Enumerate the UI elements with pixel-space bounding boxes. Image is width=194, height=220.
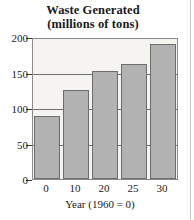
x-axis-label-30: 30 [147, 183, 177, 194]
bar-year-20 [92, 71, 118, 179]
y-axis-label-150: 150 [0, 69, 28, 80]
x-axis-label-0: 0 [31, 183, 61, 194]
y-axis-label-100: 100 [0, 104, 28, 115]
x-axis-label-20: 20 [89, 183, 119, 194]
plot-area [32, 38, 178, 180]
page-edge-rule [190, 0, 191, 220]
chart-title: Waste Generated (millions of tons) [0, 3, 186, 31]
bar-year-10 [63, 90, 89, 179]
bar-year-30 [150, 44, 176, 179]
bar-series [33, 39, 177, 179]
chart-title-line-2: (millions of tons) [0, 17, 186, 31]
y-axis-label-0: 0 [0, 175, 28, 186]
chart-title-line-1: Waste Generated [0, 3, 186, 17]
x-axis-title: Year (1960 = 0) [14, 198, 186, 210]
bar-year-25 [121, 64, 147, 180]
chart-figure: Waste Generated (millions of tons) 200 1… [0, 0, 194, 220]
x-axis-label-10: 10 [60, 183, 90, 194]
bar-year-0 [34, 116, 60, 179]
x-axis-label-25: 25 [118, 183, 148, 194]
y-axis-label-200: 200 [0, 33, 28, 44]
y-axis-label-50: 50 [0, 140, 28, 151]
